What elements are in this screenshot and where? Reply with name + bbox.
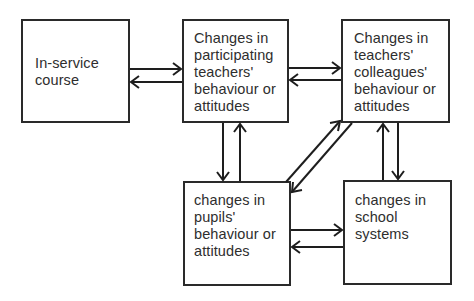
arrow-pupils-to-participating <box>234 124 246 181</box>
arrow-pupils-to-school-systems <box>291 224 342 236</box>
arrow-school-systems-to-pupils <box>292 241 343 253</box>
arrow-in-service-to-participating <box>130 63 181 75</box>
arrow-pupils-to-colleagues <box>286 121 340 182</box>
arrow-participating-to-in-service <box>131 76 182 88</box>
arrow-colleagues-to-pupils <box>292 123 352 192</box>
arrow-colleagues-to-participating <box>290 74 341 86</box>
arrow-colleagues-to-school-systems <box>392 123 404 179</box>
arrow-participating-to-colleagues <box>289 62 340 74</box>
diagram-canvas: In-service course Changes in participati… <box>0 0 474 301</box>
connector-arrows <box>0 0 474 301</box>
arrow-participating-to-pupils <box>217 123 229 180</box>
arrow-school-systems-to-colleagues <box>377 124 389 180</box>
